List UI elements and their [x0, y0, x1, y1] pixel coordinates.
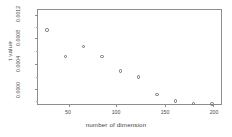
x-tick [213, 104, 214, 107]
data-point [155, 93, 158, 96]
x-tick-label: 150 [161, 109, 170, 115]
scatter-points-layer [38, 10, 221, 104]
x-tick-label: 200 [210, 109, 219, 115]
y-tick-label: 0.0008 [15, 32, 21, 46]
x-axis-title: number of dimension [0, 121, 232, 128]
x-tick [69, 104, 70, 107]
y-tick-label: 0.0004 [15, 58, 21, 72]
y-tick-label: 0.0012 [15, 8, 21, 22]
data-point [192, 102, 195, 105]
data-point [137, 75, 140, 78]
y-tick-minor [36, 51, 38, 52]
data-point [64, 55, 67, 58]
y-axis-title: t value [6, 47, 13, 61]
y-tick-major [35, 38, 38, 39]
y-tick-minor [36, 101, 38, 102]
y-tick-major [35, 89, 38, 90]
x-tick [165, 104, 166, 107]
x-tick-label: 100 [112, 109, 121, 115]
chart-screenshot: 0.0012 0.0008 0.0004 0.0000 50 100 150 2… [0, 0, 232, 137]
y-tick-major [35, 64, 38, 65]
data-point [119, 69, 122, 72]
data-point [82, 45, 85, 48]
x-tick-label: 50 [65, 109, 71, 115]
data-point [45, 28, 48, 31]
data-point [100, 55, 103, 58]
data-point [174, 99, 177, 102]
y-tick-minor [36, 27, 38, 28]
x-tick [116, 104, 117, 107]
plot-area [37, 9, 222, 105]
y-tick-minor [36, 77, 38, 78]
y-tick-major [35, 15, 38, 16]
y-tick-label: 0.0000 [15, 84, 21, 98]
